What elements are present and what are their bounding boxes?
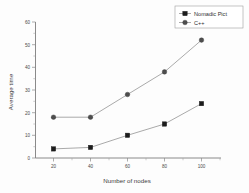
- series-cpp: [51, 38, 204, 120]
- y-axis-tick-labels: 0 10 20 30 40 50 60: [25, 20, 31, 161]
- series-nomadic-pict-line: [54, 104, 202, 149]
- series-nomadic-pict-point-20: [51, 147, 55, 151]
- x-tick-label-60: 60: [125, 164, 131, 169]
- legend-label-nomadic-pict: Nomadic Pict: [194, 11, 227, 17]
- y-tick-label-60: 60: [25, 20, 31, 25]
- x-axis-tick-labels: 20 40 60 80 100: [51, 164, 206, 169]
- legend-marker-circle-icon: [183, 20, 188, 25]
- y-tick-label-10: 10: [25, 133, 31, 138]
- y-axis-ticks: [32, 22, 36, 158]
- series-nomadic-pict-point-60: [125, 133, 129, 137]
- legend-label-cpp: C++: [194, 20, 205, 26]
- series-cpp-point-40: [88, 115, 93, 120]
- series-cpp-point-80: [162, 70, 167, 75]
- legend-item-nomadic-pict[interactable]: Nomadic Pict: [179, 11, 227, 17]
- series-nomadic-pict-point-40: [88, 145, 92, 149]
- x-tick-label-80: 80: [162, 164, 168, 169]
- y-tick-label-0: 0: [27, 156, 30, 161]
- series-cpp-line: [54, 40, 202, 117]
- legend-marker-square-icon: [183, 11, 187, 15]
- x-tick-label-40: 40: [88, 164, 94, 169]
- series-cpp-point-60: [125, 92, 130, 97]
- line-chart: 0 10 20 30 40 50 60 20 40 60 80: [0, 0, 249, 193]
- chart-container: 0 10 20 30 40 50 60 20 40 60 80: [0, 0, 249, 193]
- series-nomadic-pict-point-100: [199, 101, 203, 105]
- x-axis-title: Number of nodes: [103, 177, 150, 184]
- x-axis-ticks: [54, 158, 221, 162]
- series-nomadic-pict: [51, 101, 203, 151]
- series-cpp-point-20: [51, 115, 56, 120]
- series-nomadic-pict-point-80: [162, 122, 166, 126]
- x-tick-label-20: 20: [51, 164, 57, 169]
- y-tick-label-50: 50: [25, 43, 31, 48]
- y-tick-label-40: 40: [25, 65, 31, 70]
- y-tick-label-20: 20: [25, 111, 31, 116]
- x-tick-label-100: 100: [198, 164, 206, 169]
- y-axis-title: Average time: [7, 73, 14, 110]
- series-cpp-point-100: [199, 38, 204, 43]
- legend: Nomadic Pict C++: [175, 6, 243, 28]
- y-tick-label-30: 30: [25, 88, 31, 93]
